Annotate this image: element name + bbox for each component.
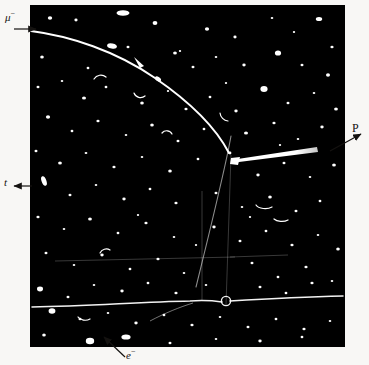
tau-label: t	[4, 177, 7, 188]
muon-label: μ−	[5, 10, 15, 23]
tau-label-text: t	[4, 176, 7, 188]
proton-label-text: P	[352, 121, 359, 135]
proton-label: P	[352, 122, 359, 134]
electron-label-charge: −	[131, 347, 136, 356]
electron-label: e−	[126, 348, 135, 361]
bubble-chamber-figure: μ− t P e−	[0, 0, 369, 365]
proton-arrow	[330, 134, 361, 151]
annotation-arrows	[0, 0, 369, 365]
muon-label-charge: −	[11, 9, 16, 18]
electron-arrow	[104, 337, 125, 357]
